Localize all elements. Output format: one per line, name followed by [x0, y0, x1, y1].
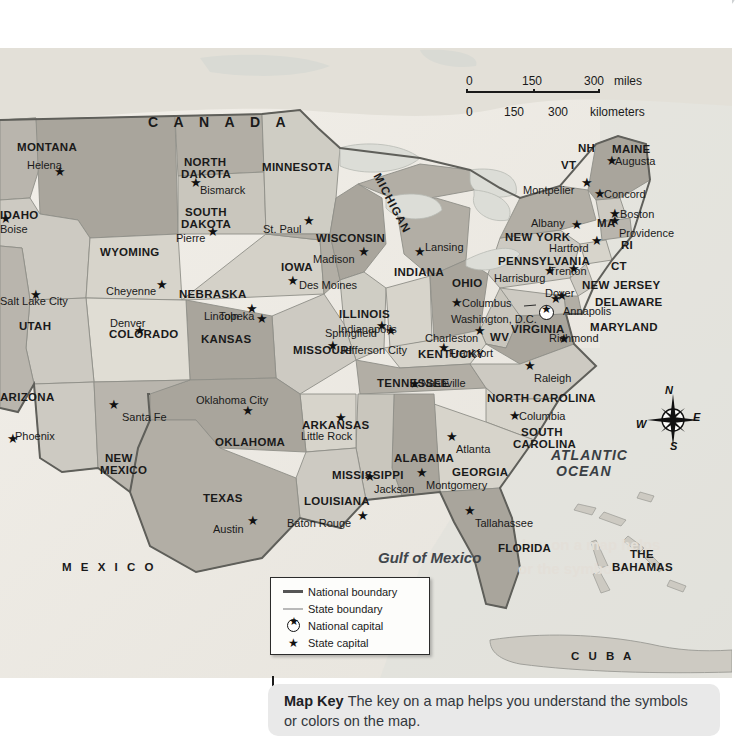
capital-label-raleigh: Raleigh — [534, 373, 571, 385]
national-capital-icon — [278, 619, 308, 632]
capital-label-baton-rouge: Baton Rouge — [287, 518, 351, 530]
water-label-ocean: OCEAN — [556, 464, 612, 479]
state-label-new: NEW — [105, 452, 133, 464]
capital-label-columbus: Columbus — [462, 298, 512, 310]
capital-label-montpelier: Montpelier — [523, 185, 574, 197]
capital-label-montgomery: Montgomery — [426, 480, 487, 492]
state-label-new-jersey: NEW JERSEY — [582, 279, 660, 291]
map-key-caption: Map Key The key on a map helps you under… — [268, 684, 720, 736]
key-label-state-boundary: State boundary — [308, 603, 383, 615]
state-capital-star-icon: ★ — [278, 637, 308, 649]
state-label-south: SOUTH — [521, 426, 563, 438]
state-label-wyoming: WYOMING — [100, 246, 160, 258]
state-label-indiana: INDIANA — [394, 266, 444, 278]
capital-label-atlanta: Atlanta — [456, 444, 490, 456]
state-label-ct: CT — [611, 260, 627, 272]
capital-label-charleston: Charleston — [425, 333, 478, 345]
capital-label-madison: Madison — [313, 254, 355, 266]
state-label-ohio: OHIO — [452, 277, 483, 289]
state-label-ri: RI — [621, 239, 633, 251]
page-bleed-artifact-2: or the symbols — [518, 560, 625, 577]
capital-label-boston: Boston — [620, 209, 654, 221]
key-row-national-capital: National capital — [278, 617, 422, 634]
capital-label-jackson: Jackson — [374, 484, 414, 496]
key-label-national-boundary: National boundary — [308, 586, 397, 598]
capital-label-lansing: Lansing — [425, 242, 464, 254]
state-label-south: SOUTH — [185, 206, 227, 218]
water-label-gulf-of-mexico: Gulf of Mexico — [378, 550, 481, 566]
region-label-bahamas: BAHAMAS — [612, 561, 673, 573]
compass-south-label: S — [670, 440, 677, 452]
country-label-m-e-x-i-c-o: M E X I C O — [62, 561, 156, 573]
capital-label-concord: Concord — [604, 189, 646, 201]
key-row-state-capital: ★ State capital — [278, 634, 422, 651]
state-label-utah: UTAH — [19, 320, 51, 332]
scale-bar: 0 150 300 miles 0 150 300 kilometers — [466, 74, 656, 120]
compass-rose: N E S W — [645, 390, 701, 446]
capital-label-nashville: Nashville — [421, 378, 466, 390]
capital-label-cheyenne: Cheyenne — [106, 286, 156, 298]
key-label-national-capital: National capital — [308, 620, 383, 632]
scale-miles-tick-0: 0 — [466, 74, 473, 88]
capital-label-hartford: Hartford — [549, 243, 589, 255]
capital-label-st-paul: St. Paul — [263, 224, 302, 236]
key-row-national-boundary: National boundary — [278, 583, 422, 600]
country-label-c-u-b-a: C U B A — [571, 650, 634, 662]
capital-label-little-rock: Little Rock — [301, 431, 352, 443]
state-label-north-carolina: NORTH CAROLINA — [487, 392, 596, 404]
capital-label-bismarck: Bismarck — [200, 185, 245, 197]
scale-miles-tick-300: 300 — [584, 74, 604, 88]
state-label-minnesota: MINNESOTA — [262, 161, 333, 173]
caption-body: The key on a map helps you understand th… — [284, 693, 688, 729]
state-label-arizona: ARIZONA — [0, 391, 55, 403]
capital-label-richmond: Richmond — [549, 333, 599, 345]
map-key-legend[interactable]: National boundary State boundary Nationa… — [270, 577, 430, 655]
capital-label-phoenix: Phoenix — [15, 431, 55, 443]
capital-label-albany: Albany — [531, 218, 565, 230]
state-label-mexico: MEXICO — [100, 464, 147, 476]
state-label-texas: TEXAS — [203, 492, 243, 504]
capital-label-austin: Austin — [213, 524, 244, 536]
scale-km-ticks: 0 150 300 kilometers — [466, 105, 656, 120]
national-capital-marker[interactable] — [539, 305, 554, 320]
scale-km-tick-0: 0 — [466, 105, 473, 119]
caption-term: Map Key — [284, 693, 344, 709]
key-label-state-capital: State capital — [308, 637, 369, 649]
scale-bar-line — [466, 89, 656, 103]
state-label-maryland: MARYLAND — [590, 321, 658, 333]
state-label-alabama: ALABAMA — [394, 452, 454, 464]
capital-label-oklahoma-city: Oklahoma City — [196, 395, 268, 407]
capital-label-des-moines: Des Moines — [299, 280, 357, 292]
state-label-carolina: CAROLINA — [513, 438, 576, 450]
compass-north-label: N — [665, 384, 673, 396]
state-label-florida: FLORIDA — [498, 542, 551, 554]
scale-miles-ticks: 0 150 300 miles — [466, 74, 656, 89]
state-boundary-line-icon — [278, 608, 308, 610]
scale-km-tick-300: 300 — [548, 105, 568, 119]
state-label-dakota: DAKOTA — [181, 168, 231, 180]
capital-label-pierre: Pierre — [176, 233, 205, 245]
capital-label-columbia: Columbia — [519, 411, 565, 423]
scale-miles-tick-150: 150 — [522, 74, 542, 88]
state-label-louisiana: LOUISIANA — [304, 495, 370, 507]
capital-label-augusta: Augusta — [615, 156, 655, 168]
scale-km-unit: kilometers — [590, 105, 645, 119]
region-label-the: THE — [630, 548, 654, 560]
state-label-wisconsin: WISCONSIN — [316, 232, 385, 244]
country-label-c-a-n-a-d-a: C A N A D A — [148, 115, 292, 130]
state-label-north: NORTH — [184, 156, 226, 168]
state-label-vt: VT — [561, 159, 576, 171]
key-row-state-boundary: State boundary — [278, 600, 422, 617]
capital-label-annapolis: Annapolis — [563, 306, 611, 318]
capital-label-frankfort: Frankfort — [449, 348, 493, 360]
compass-east-label: E — [693, 411, 700, 423]
state-label-nh: NH — [578, 142, 595, 154]
state-label-montana: MONTANA — [17, 141, 77, 153]
state-label-kansas: KANSAS — [201, 333, 251, 345]
state-label-nebraska: NEBRASKA — [179, 288, 247, 300]
capital-label-tallahassee: Tallahassee — [475, 518, 533, 530]
compass-west-label: W — [636, 418, 646, 430]
water-label-atlantic: ATLANTIC — [551, 448, 628, 463]
state-label-oklahoma: OKLAHOMA — [215, 436, 285, 448]
capital-label-topeka: Topeka — [219, 311, 254, 323]
